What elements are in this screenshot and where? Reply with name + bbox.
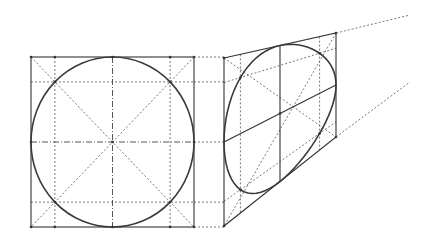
construction-point — [30, 56, 33, 59]
projection-line — [336, 15, 410, 33]
front-square-group — [30, 56, 196, 229]
oblique-face-group — [223, 32, 338, 228]
projection-lines-group — [336, 15, 410, 137]
construction-point — [30, 226, 33, 229]
construction-point — [279, 112, 282, 115]
construction-point — [54, 201, 57, 204]
construction-point — [318, 52, 321, 55]
construction-point — [111, 141, 114, 144]
circle-to-ellipse-projection-diagram — [0, 0, 423, 243]
construction-point — [223, 225, 226, 228]
construction-point — [111, 226, 114, 229]
transfer-lines-group — [194, 57, 224, 227]
construction-point — [169, 226, 172, 229]
projection-line — [336, 82, 410, 137]
construction-point — [223, 57, 226, 60]
construction-point — [169, 201, 172, 204]
construction-point — [54, 81, 57, 84]
construction-point — [54, 226, 57, 229]
construction-point — [318, 132, 321, 135]
construction-point — [169, 81, 172, 84]
construction-point — [111, 56, 114, 59]
construction-point — [54, 56, 57, 59]
construction-point — [239, 188, 242, 191]
construction-point — [169, 56, 172, 59]
construction-point — [239, 76, 242, 79]
construction-point — [30, 141, 33, 144]
